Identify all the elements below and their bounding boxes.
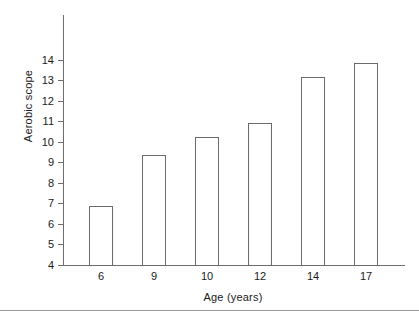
y-tick-label: 8 [26, 178, 54, 189]
y-tick-mark [58, 60, 63, 61]
y-tick-mark [58, 203, 63, 204]
y-tick-mark [58, 265, 63, 266]
x-tick-label: 6 [81, 271, 121, 282]
y-tick-mark [58, 101, 63, 102]
y-tick-label: 6 [26, 219, 54, 230]
y-tick-mark [58, 244, 63, 245]
y-tick-mark [58, 142, 63, 143]
x-tick-label: 9 [134, 271, 174, 282]
y-tick-label: 13 [26, 75, 54, 86]
y-axis-line [63, 15, 64, 266]
y-tick-label: 9 [26, 157, 54, 168]
x-tick-label: 12 [240, 271, 280, 282]
bar-age-9 [142, 155, 166, 266]
y-tick-mark [58, 121, 63, 122]
y-tick-mark [58, 224, 63, 225]
bar-age-17 [354, 63, 378, 266]
y-tick-mark [58, 80, 63, 81]
bar-age-6 [89, 206, 113, 266]
y-tick-label: 12 [26, 96, 54, 107]
y-tick-mark [58, 183, 63, 184]
chart-figure: Aerobic scope 4 5 6 7 8 9 10 11 12 13 14 [0, 0, 419, 321]
bar-age-14 [301, 77, 325, 266]
y-tick-label: 4 [26, 260, 54, 271]
y-tick-label: 11 [26, 116, 54, 127]
x-tick-label: 10 [187, 271, 227, 282]
y-tick-label: 14 [26, 55, 54, 66]
bottom-divider [0, 310, 419, 311]
plot-area: 4 5 6 7 8 9 10 11 12 13 14 6 9 10 12 1 [0, 0, 419, 321]
y-tick-mark [58, 162, 63, 163]
y-tick-label: 5 [26, 239, 54, 250]
x-tick-label: 14 [293, 271, 333, 282]
bar-age-10 [195, 137, 219, 266]
y-tick-label: 7 [26, 198, 54, 209]
bar-age-12 [248, 123, 272, 266]
x-axis-title: Age (years) [60, 291, 406, 303]
y-tick-label: 10 [26, 137, 54, 148]
x-tick-label: 17 [346, 271, 386, 282]
